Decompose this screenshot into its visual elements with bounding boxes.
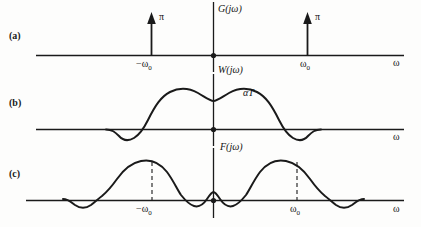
axis-label-omega-b: ω	[393, 131, 400, 142]
spectra-plot-svg	[0, 0, 421, 227]
tick-label-omega0-a: ω0	[300, 58, 310, 72]
panel-c-origin-dot	[211, 198, 216, 203]
axis-label-omega-c: ω	[393, 203, 400, 214]
tick-label-omega0-c: ω0	[290, 203, 300, 217]
panel-a-impulse-left	[147, 12, 156, 56]
tick-label-omega0-a-text: ω	[300, 58, 307, 69]
tick-label-omega0-a-sub: 0	[307, 64, 311, 72]
tick-label-neg-omega0-a: −ω0	[136, 58, 152, 72]
panel-b-group	[36, 74, 404, 146]
tick-label-neg-omega0-a-sub: 0	[148, 64, 152, 72]
panel-a-impulse-right	[303, 12, 312, 56]
tick-label-neg-omega0-c-sub: 0	[148, 209, 152, 217]
panel-a-origin-dot	[211, 53, 216, 58]
axis-label-omega-a: ω	[393, 57, 400, 68]
tick-label-neg-omega0-c-text: −ω	[136, 203, 148, 214]
panel-label-a: (a)	[9, 30, 21, 41]
function-label-f: F(jω)	[220, 141, 243, 152]
tick-label-neg-omega0-a-text: −ω	[136, 58, 148, 69]
tick-label-omega0-c-text: ω	[290, 203, 297, 214]
panel-b-origin-dot	[211, 127, 216, 132]
function-label-w: W(jω)	[218, 64, 243, 75]
panel-c-group	[26, 148, 404, 218]
tick-label-neg-omega0-c: −ω0	[136, 203, 152, 217]
impulse-label-pi-left: π	[159, 11, 164, 22]
impulse-label-pi-right: π	[315, 11, 320, 22]
tick-label-omega0-c-sub: 0	[297, 209, 301, 217]
figure-container: (a) (b) (c) G(jω) π π −ω0 ω0 ω W(jω) αT …	[0, 0, 421, 227]
panel-label-c: (c)	[9, 168, 20, 179]
panel-label-b: (b)	[9, 97, 21, 108]
function-label-g: G(jω)	[218, 3, 242, 14]
amplitude-label-alpha-t: αT	[243, 87, 254, 98]
